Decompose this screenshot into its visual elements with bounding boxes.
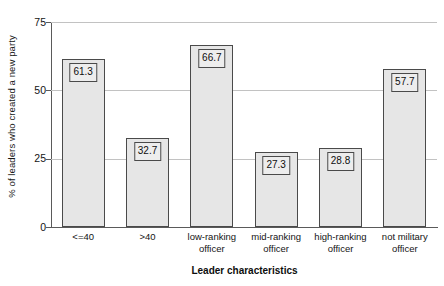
x-axis-tick-label: mid-ranking officer [244,231,308,254]
bar[interactable]: 57.7 [383,69,426,227]
bar-value-label: 28.8 [327,152,354,171]
y-axis-title-text: % of leaders who created a new party [6,35,17,198]
gridline [51,159,437,160]
y-axis-tick-label: 25 [20,153,46,164]
gridline [51,22,437,23]
bar-value-label: 61.3 [69,63,96,82]
x-axis-title: Leader characteristics [51,265,438,276]
x-axis-line [51,227,438,228]
x-axis-tick-label: >40 [115,231,179,243]
gridline [51,90,437,91]
bar-chart: % of leaders who created a new party 025… [0,0,444,286]
bar-value-label: 66.7 [198,49,225,68]
x-axis-tick-label: not military officer [373,231,437,254]
y-axis-tick-label: 50 [20,85,46,96]
x-axis-tick-labels: <=40>40low-ranking officermid-ranking of… [51,231,438,267]
x-axis-tick-label: high-ranking officer [308,231,372,254]
bar-value-label: 27.3 [262,156,289,175]
bar[interactable]: 32.7 [126,138,169,227]
bar[interactable]: 28.8 [319,148,362,227]
y-axis-tick-label: 0 [20,222,46,233]
bar[interactable]: 66.7 [190,45,233,227]
plot-area: 61.332.766.727.328.857.7 [51,22,437,227]
y-axis-tick-label: 75 [20,17,46,28]
bar-value-label: 32.7 [134,142,161,161]
y-axis-tick-labels: 0255075 [18,0,46,286]
bar-value-label: 57.7 [391,73,418,92]
x-axis-tick-label: <=40 [51,231,115,243]
bar[interactable]: 61.3 [62,59,105,227]
bar[interactable]: 27.3 [255,152,298,227]
x-axis-tick-label: low-ranking officer [180,231,244,254]
